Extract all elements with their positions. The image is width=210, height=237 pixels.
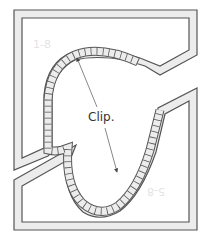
bottom-right-mark: 5-8 (147, 185, 165, 198)
top-left-mark: 1-8 (33, 38, 51, 51)
clip-label: Clip. (88, 110, 114, 124)
clip-diagram: 1-8 5-8 Clip. (0, 0, 210, 237)
